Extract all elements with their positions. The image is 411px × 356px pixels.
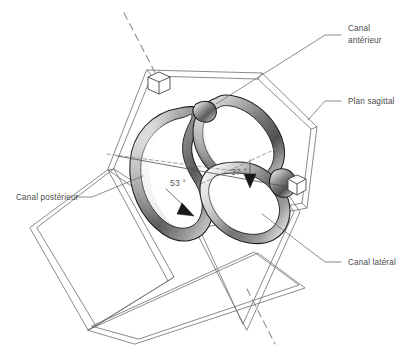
canal-anterieur-label-line1: Canal bbox=[348, 24, 370, 33]
canal-anterieur-label-line2: antérieur bbox=[348, 36, 382, 45]
canal-posterieur-label: Canal postérieur bbox=[16, 193, 79, 202]
anatomical-figure: 53 ° 37 ° Canal antérieur Plan sagittal … bbox=[0, 0, 411, 356]
canal-lateral-label: Canal latéral bbox=[348, 258, 396, 267]
leader-canal-anterieur bbox=[216, 35, 341, 104]
angle-53-value: 53 ° bbox=[170, 178, 186, 188]
cube-marker-top-left bbox=[148, 72, 170, 94]
sagittal-plane-edge-3 bbox=[311, 127, 317, 129]
lower-plane-outer bbox=[88, 253, 305, 344]
plan-sagittal-label: Plan sagittal bbox=[348, 97, 395, 106]
lower-plane-inner bbox=[92, 252, 299, 339]
figure-canvas: 53 ° 37 ° Canal antérieur Plan sagittal … bbox=[0, 0, 411, 356]
canal-common-crus bbox=[193, 101, 217, 122]
sagittal-plane-edge-4 bbox=[302, 203, 307, 208]
left-plane-edge-1 bbox=[168, 277, 174, 281]
vertical-axis-upper bbox=[124, 13, 160, 82]
vertical-axis-lower bbox=[247, 289, 275, 344]
leader-plan-sagittal bbox=[308, 101, 341, 120]
angle-37-value: 37 ° bbox=[231, 167, 247, 177]
